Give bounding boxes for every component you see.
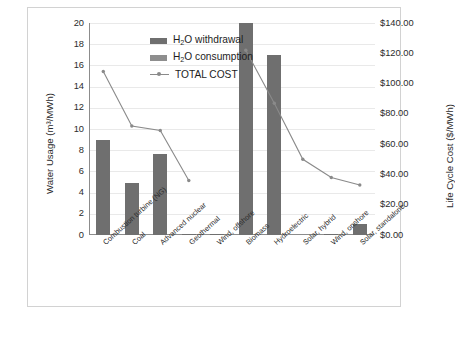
legend-item-withdrawal: H2O withdrawal xyxy=(150,32,253,49)
line-marker xyxy=(187,179,190,182)
chart-frame: 02468101214161820 $0.00$20.00$40.00$60.0… xyxy=(27,7,401,307)
legend-item-consumption: H2O consumption xyxy=(150,49,253,66)
line-marker xyxy=(102,70,105,73)
line-segment xyxy=(246,50,360,185)
y-axis-right-title: Life Cycle Cost ($/MWh) xyxy=(444,104,455,208)
chart-legend: H2O withdrawal H2O consumption TOTAL COS… xyxy=(150,32,253,83)
legend-line-marker-icon xyxy=(150,70,169,80)
line-marker xyxy=(130,124,133,127)
line-segment xyxy=(103,72,189,181)
line-marker xyxy=(330,176,333,179)
legend-label-consumption: H2O consumption xyxy=(173,51,253,64)
line-marker xyxy=(301,158,304,161)
line-marker xyxy=(159,129,162,132)
legend-item-total-cost: TOTAL COST xyxy=(150,66,253,83)
legend-swatch-withdrawal-icon xyxy=(150,38,167,44)
legend-swatch-consumption-icon xyxy=(150,55,167,61)
line-marker xyxy=(273,102,276,105)
legend-label-withdrawal: H2O withdrawal xyxy=(173,34,243,47)
line-marker xyxy=(358,183,361,186)
legend-label-total-cost: TOTAL COST xyxy=(175,69,238,80)
